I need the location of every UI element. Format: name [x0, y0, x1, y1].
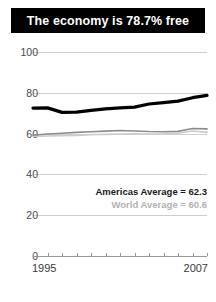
legend-world-average: World Average = 60.6	[112, 199, 207, 210]
plot-area: 020406080100 1995 2007 Americas Average …	[0, 0, 216, 302]
series-layer	[0, 0, 216, 302]
legend-americas-average: Americas Average = 62.3	[95, 186, 207, 197]
country-score-line	[33, 95, 207, 112]
chart-container: The economy is 78.7% free 020406080100 1…	[0, 0, 216, 302]
